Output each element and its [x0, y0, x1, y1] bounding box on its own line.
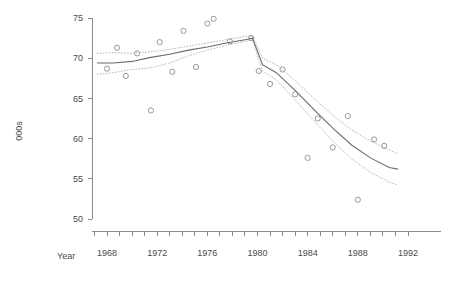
- data-point: [104, 66, 109, 71]
- x-axis-tick-label: 1992: [398, 248, 418, 258]
- y-axis-tick-label: 55: [73, 174, 83, 184]
- data-point: [181, 28, 186, 33]
- x-axis-tick-label: 1976: [197, 248, 217, 258]
- data-point: [211, 16, 216, 21]
- data-points-layer: [104, 16, 386, 202]
- data-point: [170, 69, 175, 74]
- confidence-bands-layer: [97, 36, 398, 186]
- data-point: [227, 39, 232, 44]
- x-axis-tick-label: 1984: [298, 248, 318, 258]
- scatter-plot-svg: 5055606570751968197219761980198419881992…: [0, 0, 449, 282]
- y-axis-tick-label: 65: [73, 94, 83, 104]
- data-point: [355, 197, 360, 202]
- y-axis-tick-label: 75: [73, 13, 83, 23]
- axes-layer: [88, 18, 441, 236]
- data-point: [345, 113, 350, 118]
- data-point: [372, 137, 377, 142]
- y-axis-tick-label: 50: [73, 214, 83, 224]
- x-axis-title: Year: [57, 251, 75, 261]
- upper-confidence-band: [97, 36, 398, 154]
- data-point: [114, 45, 119, 50]
- fit-line-layer: [97, 38, 398, 169]
- data-point: [315, 116, 320, 121]
- data-point: [135, 51, 140, 56]
- x-axis-tick-label: 1968: [97, 248, 117, 258]
- fitted-trend: [97, 38, 398, 169]
- y-axis-title: 000s: [14, 121, 24, 141]
- axis-labels-layer: 5055606570751968197219761980198419881992: [73, 13, 418, 258]
- data-point: [123, 73, 128, 78]
- data-point: [293, 92, 298, 97]
- data-point: [256, 68, 261, 73]
- data-point: [157, 40, 162, 45]
- data-point: [305, 155, 310, 160]
- data-point: [148, 108, 153, 113]
- lower-confidence-band: [97, 40, 398, 186]
- chart-container: 5055606570751968197219761980198419881992…: [0, 0, 449, 282]
- data-point: [330, 145, 335, 150]
- x-axis-tick-label: 1980: [247, 248, 267, 258]
- data-point: [193, 64, 198, 69]
- x-axis-tick-label: 1972: [147, 248, 167, 258]
- y-axis-tick-label: 60: [73, 134, 83, 144]
- data-point: [267, 81, 272, 86]
- data-point: [205, 21, 210, 26]
- x-axis-tick-label: 1988: [348, 248, 368, 258]
- y-axis-tick-label: 70: [73, 53, 83, 63]
